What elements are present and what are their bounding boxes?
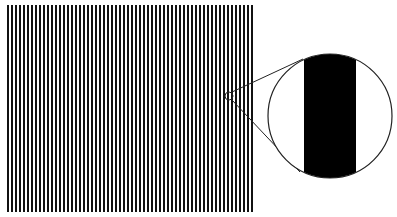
stripe xyxy=(215,5,217,212)
stripe xyxy=(231,5,233,212)
stripe xyxy=(83,5,85,212)
stripe xyxy=(247,5,249,212)
stripe xyxy=(63,5,65,212)
stripe xyxy=(199,5,201,212)
stripe xyxy=(99,5,101,212)
stripe xyxy=(139,5,141,212)
stripe xyxy=(7,5,9,212)
stripe xyxy=(171,5,173,212)
stripe xyxy=(75,5,77,212)
stripe xyxy=(155,5,157,212)
magnified-stripe xyxy=(304,54,356,178)
stripe xyxy=(167,5,169,212)
stripe xyxy=(71,5,73,212)
stripe xyxy=(31,5,33,212)
stripe xyxy=(87,5,89,212)
stripe xyxy=(195,5,197,212)
stripe xyxy=(115,5,117,212)
stripe xyxy=(39,5,41,212)
stripe xyxy=(111,5,113,212)
stripe xyxy=(59,5,61,212)
stripe xyxy=(219,5,221,212)
grating-figure xyxy=(0,0,397,217)
stripe xyxy=(67,5,69,212)
stripe xyxy=(187,5,189,212)
grating-svg xyxy=(0,0,397,217)
stripe xyxy=(19,5,21,212)
stripe xyxy=(103,5,105,212)
stripe xyxy=(107,5,109,212)
stripe xyxy=(15,5,17,212)
stripe xyxy=(223,5,225,212)
stripe xyxy=(47,5,49,212)
stripe xyxy=(143,5,145,212)
stripe xyxy=(79,5,81,212)
stripe xyxy=(23,5,25,212)
stripe xyxy=(243,5,245,212)
stripe xyxy=(27,5,29,212)
stripe-grating xyxy=(7,5,253,212)
stripe xyxy=(183,5,185,212)
stripe xyxy=(227,5,229,212)
stripe xyxy=(191,5,193,212)
stripe xyxy=(211,5,213,212)
stripe xyxy=(131,5,133,212)
stripe xyxy=(147,5,149,212)
stripe xyxy=(11,5,13,212)
stripe xyxy=(251,5,253,212)
stripe xyxy=(91,5,93,212)
stripe xyxy=(159,5,161,212)
stripe xyxy=(51,5,53,212)
stripe xyxy=(179,5,181,212)
stripe xyxy=(135,5,137,212)
stripe xyxy=(123,5,125,212)
stripe xyxy=(175,5,177,212)
stripe xyxy=(119,5,121,212)
stripe xyxy=(35,5,37,212)
stripe xyxy=(95,5,97,212)
stripe xyxy=(203,5,205,212)
stripe xyxy=(127,5,129,212)
stripe xyxy=(163,5,165,212)
stripe xyxy=(151,5,153,212)
stripe xyxy=(207,5,209,212)
stripe xyxy=(55,5,57,212)
stripe xyxy=(235,5,237,212)
stripe xyxy=(43,5,45,212)
